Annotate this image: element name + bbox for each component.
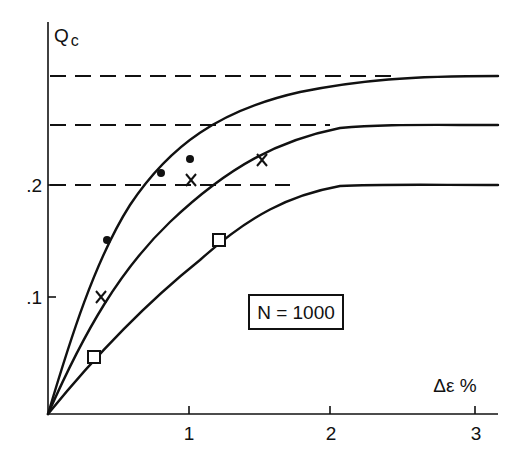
square-marker [213,234,225,246]
y-tick-label-0.2: .2 [26,175,42,196]
x-tick-label-2: 2 [326,423,337,444]
y-tick-label-0.1: .1 [26,287,42,308]
curve-upper [48,76,498,414]
dot-marker [103,236,111,244]
dot-marker [186,155,194,163]
chart: 1 2 3 .1 .2 Qc Δε % N = 1000 [0,0,516,466]
annotation-text: N = 1000 [257,302,335,323]
curve-middle [48,125,498,414]
x-marker [96,291,106,303]
square-marker [88,351,100,363]
x-axis-label: Δε % [433,375,476,396]
x-tick-label-3: 3 [471,423,482,444]
y-axis-label: Qc [54,25,79,49]
dot-marker [157,169,165,177]
x-tick-label-1: 1 [184,423,195,444]
